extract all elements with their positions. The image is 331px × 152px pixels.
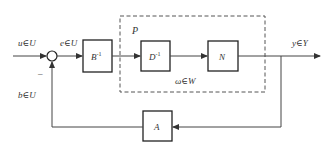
- input-signal-label: u∈U: [18, 38, 36, 48]
- block-a-label: A: [153, 122, 160, 132]
- minus-sign: –: [37, 68, 43, 78]
- plant-label: P: [131, 25, 138, 36]
- error-signal-label: e∈U: [60, 38, 78, 48]
- block-n-label: N: [218, 52, 226, 62]
- internal-signal-label: ω∈W: [175, 76, 197, 86]
- summing-junction: [47, 51, 57, 61]
- block-diagram: P u∈U – e∈U B-1 D-1 ω∈W N y∈Y A b∈U: [0, 0, 331, 152]
- feedback-signal-label: b∈U: [18, 90, 36, 100]
- output-signal-label: y∈Y: [291, 38, 309, 48]
